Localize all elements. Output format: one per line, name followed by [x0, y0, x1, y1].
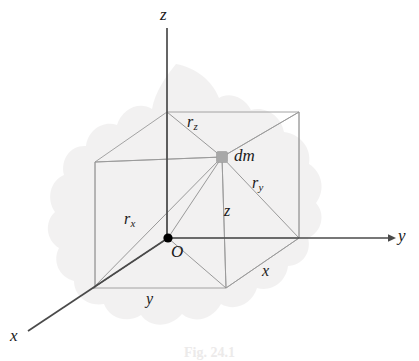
mass-element-label: dm [234, 147, 255, 164]
y-axis-label: y [398, 227, 406, 244]
r-x-sub: x [130, 217, 135, 229]
figure-caption: Fig. 24.1 [0, 345, 419, 361]
r-z-label: rz [187, 114, 198, 132]
edge-y-label: y [146, 291, 153, 307]
edge-z-label: z [224, 203, 230, 219]
figure-container: z y x O dm rx ry rz z x y Fig. 24.1 [0, 0, 419, 361]
r-x-label: rx [124, 211, 135, 229]
coordinate-system-diagram [0, 0, 419, 361]
mass-element-marker [217, 152, 228, 163]
origin-label: O [171, 243, 183, 260]
y-axis-arrowhead [388, 234, 396, 242]
edge-x-label: x [262, 263, 269, 279]
r-z-sub: z [193, 120, 197, 132]
z-axis-label: z [160, 6, 167, 23]
x-axis-label: x [10, 327, 18, 344]
r-y-sub: y [258, 181, 263, 193]
r-y-label: ry [252, 175, 263, 193]
